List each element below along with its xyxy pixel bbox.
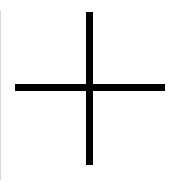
left-edge-divider	[0, 10, 1, 180]
plus-horizontal-stroke	[15, 84, 165, 91]
